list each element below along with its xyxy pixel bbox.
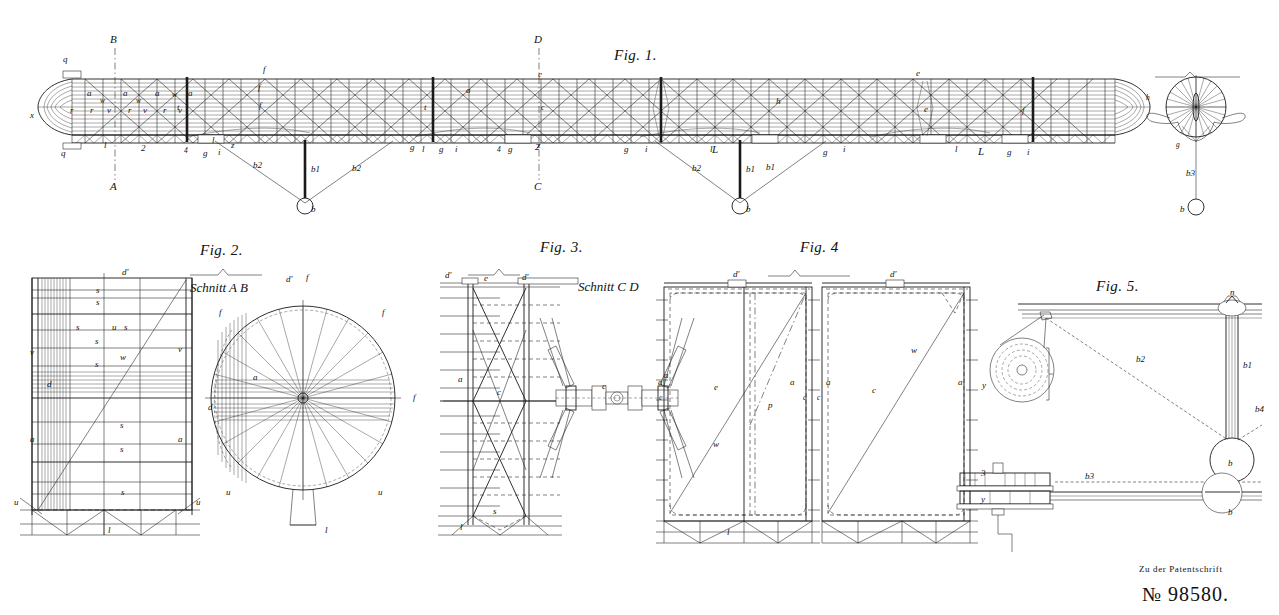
fig3-label-c-1: c [497,387,501,397]
drawing-canvas: Fig. 1. B A D C [0,0,1279,615]
fig2-label-s-6: s [124,322,128,332]
fig4-label-a-3: a [826,377,831,387]
fig2-label-a-3: a [253,372,258,382]
fig3-label-e: e [484,273,488,283]
fig4-label-a-1: a [658,377,663,387]
fig2-label-u-3: u [196,497,201,507]
fig1-label-a-5: a [466,85,471,95]
fig4-label-p: p [767,400,773,410]
fig1-label-L-1: L [711,143,718,155]
fig1-label-2-2: 2 [535,142,540,152]
fig1-label-w-2: w [136,96,141,105]
fig1-label-b-2: b [746,204,751,214]
fig1-label-b-1: b [311,204,316,214]
fig1-cs-label-g: g [1176,140,1180,149]
fig1-label-b1-1: b1 [311,164,320,174]
patent-drawing-sheet: Fig. 1. B A D C [0,0,1279,615]
fig1-label-q-top: q [63,54,68,64]
fig4-title: Fig. 4 [799,239,839,255]
fig5-label-y-2: y [980,494,985,504]
fig3-label-s: s [493,506,497,516]
fig1-label-b2-2: b2 [352,163,362,173]
fig2-label-dprime-2: d' [286,274,294,284]
fig2-label-a-2: a [178,434,183,444]
fig5-label-3: 3 [980,468,986,478]
fig2-label-w: w [120,352,126,362]
footer-caption: Zu der Patentschrift [1139,564,1222,574]
fig2-label-s-9: s [121,487,125,497]
fig2-label-v-2: v [178,344,182,354]
fig2-title: Fig. 2. [199,242,243,258]
fig2-label-s-2: s [96,297,100,307]
fig1-label-g-1: g [203,148,208,158]
fig1-label-a-3: a [155,88,160,98]
fig1-label-v-1: v [107,105,111,115]
fig5-label-b2: b2 [1136,354,1146,364]
fig5-label-n: n [1230,287,1235,297]
fig2-label-a-1: a [30,434,35,444]
fig2-label-v-1: v [30,347,34,357]
sheet-footer: Zu der Patentschrift № 98580. [1139,564,1229,605]
fig1-label-r-1: r [70,105,74,115]
fig1-label-g-6: g [823,147,828,157]
fig3-label-a-1: a [458,374,463,384]
fig1-label-a-1: a [87,88,92,98]
fig1-label-v-2: v [143,105,147,115]
fig3-label-dprime-2: d' [522,272,530,282]
fig4-label-dprime-2: d' [890,269,898,279]
fig1-label-e-3: e [924,104,928,114]
fig1-label-e-2: e [916,68,920,78]
section-mark-b: B [110,33,117,45]
fig4-label-w-1: w [713,439,719,449]
section-mark-c: C [534,180,542,192]
section-mark-a: A [109,180,117,192]
fig1-label-b1-2: b1 [746,164,755,174]
section-mark-d: D [533,33,542,45]
fig1-label-2-1: 2 [141,143,146,153]
fig4-label-e: e [714,382,718,392]
fig1-label-a-4: a [188,88,193,98]
fig1-label-w-3: w [172,90,177,99]
fig2-label-u-4: u [226,487,231,497]
fig1-label-r-3: r [128,105,132,115]
fig1-label-g-4: g [508,144,513,154]
fig2-label-s-3: s [76,322,80,332]
fig2-label-s-4: s [95,336,99,346]
fig2-label-s-8: s [120,444,124,454]
fig1-label-g-2: g [410,142,415,152]
fig1-title: Fig. 1. [613,47,657,63]
fig4-label-dprime-1: d' [733,269,741,279]
fig1-label-b2-3: b2 [692,163,702,173]
fig2-label-d-2: d [208,402,213,412]
fig2-section-label: Schnitt A B [190,280,248,295]
fig5-label-b4: b4 [1255,404,1265,414]
fig2-label-dprime-1: d' [122,267,130,277]
fig2-label-u-5: u [378,487,383,497]
fig1-label-b2-1: b2 [253,160,263,170]
fig1-label-w-1: w [100,96,105,105]
fig2-label-u-1: u [112,322,117,332]
fig2-label-d-1: d [47,379,52,389]
fig1-label-4-1: 4 [184,146,188,155]
fig4-label-a-4: a [958,377,963,387]
fig3-section-label: Schnitt C D [578,279,639,294]
fig1-label-g-7: g [1007,147,1012,157]
fig1-cs-label-h: h [1146,93,1150,102]
fig5-label-b-2: b [1228,507,1233,517]
fig5-label-b3: b3 [1085,471,1095,481]
fig4-label-c-body: c [872,385,876,395]
fig1-label-b1-3: b1 [766,162,775,172]
fig1-label-b3: b3 [1186,168,1196,178]
fig1-label-L-2: L [977,145,984,157]
fig1-label-a-2: a [123,88,128,98]
fig4-label-a-2: a [790,377,795,387]
fig5-label-b-1: b [1228,458,1233,468]
footer-patent-number: № 98580. [1142,583,1229,605]
fig1-label-r-4: r [163,105,167,115]
fig3-label-dprime-1: d' [445,270,453,280]
fig5-label-y-1: y [981,380,986,390]
fig2-label-s-1: s [96,285,100,295]
fig3-title: Fig. 3. [539,239,583,255]
fig1-label-h: h [776,96,781,106]
fig2-label-s-5: s [95,359,99,369]
